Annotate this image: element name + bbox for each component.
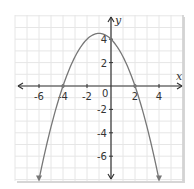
root-point xyxy=(133,84,137,88)
y-tick-label: 2 xyxy=(101,58,107,69)
y-tick-label: -2 xyxy=(97,104,107,115)
parabola-graph: -6-4-22442-2-4-6 x y 0 xyxy=(0,0,194,189)
origin-label: 0 xyxy=(102,88,108,99)
x-tick-label: -6 xyxy=(34,91,44,102)
y-axis-label: y xyxy=(114,14,122,27)
x-tick-label: -2 xyxy=(82,91,92,102)
root-point xyxy=(61,84,65,88)
y-tick-label: -6 xyxy=(97,151,107,162)
y-tick-label: -4 xyxy=(97,128,107,139)
x-tick-label: 4 xyxy=(156,91,162,102)
x-axis-label: x xyxy=(176,70,183,83)
